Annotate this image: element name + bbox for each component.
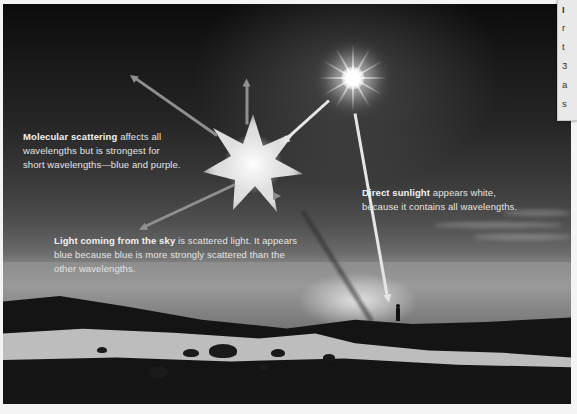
- cloud-streak: [433, 222, 563, 228]
- label-molecular-scattering: Molecular scattering affects all wavelen…: [23, 130, 183, 172]
- arrow-scatter-up: [246, 85, 249, 125]
- side-panel-cutoff: I r t 3 a s: [557, 0, 577, 121]
- label-molecular-bold: Molecular scattering: [23, 131, 117, 142]
- label-direct-sunlight: Direct sunlight appears white, because i…: [362, 186, 522, 214]
- scattering-photo: Molecular scattering affects all wavelen…: [3, 4, 571, 404]
- side-panel-char: s: [562, 98, 567, 109]
- rock: [209, 344, 237, 358]
- label-sky-bold: Light coming from the sky: [54, 235, 175, 246]
- cloud-streak: [473, 234, 571, 240]
- rock: [271, 349, 285, 357]
- side-panel-char: t: [562, 41, 565, 52]
- side-panel-char: a: [562, 79, 567, 90]
- side-panel-char: I: [562, 4, 565, 15]
- side-panel-char: r: [562, 22, 565, 33]
- rock: [183, 349, 199, 357]
- label-sky-light: Light coming from the sky is scattered l…: [54, 234, 304, 276]
- rock: [323, 354, 335, 361]
- rock: [259, 364, 269, 370]
- person-silhouette: [396, 307, 400, 321]
- side-panel-char: 3: [562, 60, 567, 71]
- figure-page: Molecular scattering affects all wavelen…: [0, 0, 577, 414]
- label-direct-bold: Direct sunlight: [362, 187, 430, 198]
- rock: [97, 347, 107, 353]
- rock: [148, 366, 168, 378]
- sun-core: [341, 66, 365, 90]
- molecule-scattering-icon: [203, 114, 303, 214]
